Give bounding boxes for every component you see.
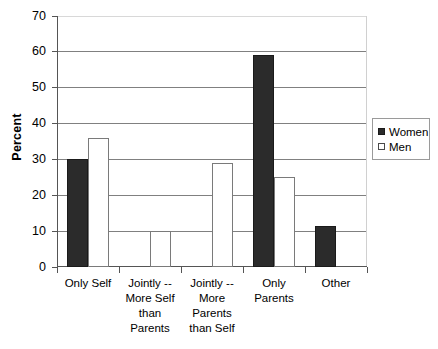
x-axis-label: Other — [305, 276, 367, 291]
bar-men-2 — [212, 163, 233, 267]
bar-women-3 — [253, 55, 274, 267]
legend: Women Men — [372, 118, 430, 160]
x-tick-mark — [367, 267, 368, 273]
bar-men-3 — [274, 177, 295, 267]
legend-item-women: Women — [378, 124, 424, 139]
y-tick-label: 10 — [0, 225, 46, 238]
x-tick-mark — [305, 267, 306, 273]
x-tick-mark — [57, 267, 58, 273]
bar-men-1 — [150, 231, 171, 267]
x-axis-label: Jointly --MoreParentsthan Self — [181, 276, 243, 336]
legend-swatch-women-icon — [378, 128, 385, 135]
y-tick-label: 0 — [0, 261, 46, 274]
bar-men-0 — [88, 138, 109, 267]
legend-item-men: Men — [378, 139, 424, 154]
bar-women-4 — [315, 226, 336, 267]
y-tick-label: 40 — [0, 117, 46, 130]
legend-label-men: Men — [389, 141, 411, 153]
x-tick-mark — [119, 267, 120, 273]
bar-women-0 — [67, 159, 88, 267]
y-tick-label: 60 — [0, 45, 46, 58]
x-axis-label: Jointly --More SelfthanParents — [119, 276, 181, 336]
bar-chart: Percent 706050403020100 Only SelfJointly… — [0, 0, 438, 349]
legend-swatch-men-icon — [378, 143, 385, 150]
x-tick-mark — [181, 267, 182, 273]
x-axis-label: Only Self — [57, 276, 119, 291]
y-tick-label: 50 — [0, 81, 46, 94]
y-tick-label: 70 — [0, 10, 46, 23]
x-tick-mark — [243, 267, 244, 273]
legend-label-women: Women — [389, 126, 428, 138]
y-tick-label: 20 — [0, 189, 46, 202]
y-tick-label: 30 — [0, 153, 46, 166]
x-axis-label: OnlyParents — [243, 276, 305, 306]
